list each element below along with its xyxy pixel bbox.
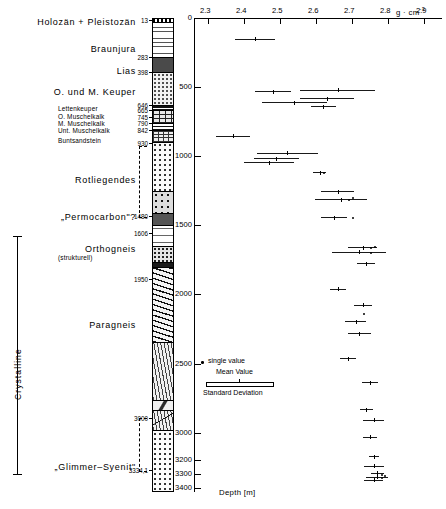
y-tick-label: 1500 — [166, 220, 192, 229]
x-tick — [316, 19, 317, 24]
y-tick — [195, 460, 201, 461]
rotliegendes-bracket — [139, 146, 147, 218]
mean-value-marker — [323, 105, 324, 109]
single-value-point — [370, 252, 372, 254]
core-depth-value: 665 — [118, 107, 148, 114]
figure-root: Holozän + PleistozänBraunjuraLiasO. und … — [0, 0, 446, 509]
strat-unit-label: Paragneis — [89, 320, 136, 330]
mean-value-marker — [255, 37, 256, 41]
lith-paragneis-band — [153, 401, 173, 411]
mean-value-marker — [269, 161, 270, 165]
y-tick-label: 3200 — [166, 455, 192, 464]
strat-unit-label: Orthogneis — [85, 244, 136, 254]
lith-lias — [153, 58, 173, 73]
y-tick-label: 3400 — [166, 483, 192, 492]
mean-value-marker — [273, 90, 274, 94]
mean-value-marker — [363, 303, 364, 307]
x-tick-label: 2.5 — [272, 6, 283, 15]
strat-unit-label: O. und M. Keuper — [54, 87, 136, 97]
y-tick-label: 0 — [166, 13, 192, 22]
y-tick-label: 2500 — [166, 359, 192, 368]
mean-value-marker — [327, 97, 328, 101]
x-axis-unit-label: g · cm-3 — [396, 6, 425, 17]
y-tick-label: 3300 — [166, 469, 192, 478]
core-depth-value: 283 — [118, 54, 148, 61]
density-depth-plot: 2.32.42.52.62.72.82.9 050010001500200025… — [194, 18, 442, 492]
mean-value-marker — [359, 332, 360, 336]
x-tick-label: 2.6 — [308, 6, 319, 15]
y-tick — [195, 433, 201, 434]
lith-untere-muschelkalk — [153, 131, 173, 143]
mean-value-marker — [370, 435, 371, 439]
y-tick-label: 3000 — [166, 428, 192, 437]
core-depth-value: 3334,1 — [118, 467, 148, 474]
strat-unit-label: Unt. Muschelkalk — [58, 127, 110, 134]
x-axis-unit-exponent: -3 — [419, 6, 425, 12]
mean-value-marker — [374, 455, 375, 459]
mean-value-marker — [294, 101, 295, 105]
mean-value-marker — [287, 151, 288, 155]
core-depth-value: 842 — [118, 127, 148, 134]
core-depth-value: 3000 — [118, 415, 148, 422]
strat-unit-label: O. Muschelkalk — [58, 113, 104, 120]
legend-standard-deviation-label: Standard Deviation — [203, 389, 263, 396]
mean-value-marker — [366, 262, 367, 266]
y-tick-label: 2000 — [166, 289, 192, 298]
strat-unit-label: (strukturell) — [58, 254, 93, 261]
lith-braunjura — [153, 23, 173, 58]
lith-rotliegendes-upper — [153, 192, 173, 214]
x-tick — [388, 19, 389, 24]
legend-single-value-dot — [201, 361, 204, 364]
core-depth-value: 1480 — [118, 213, 148, 220]
single-value-point — [363, 313, 365, 315]
core-depth-value: 1606 — [118, 230, 148, 237]
y-tick-label: 1000 — [166, 151, 192, 160]
y-tick — [195, 294, 201, 295]
mean-value-marker — [374, 464, 375, 468]
strat-unit-label: Lettenkeuper — [58, 105, 98, 112]
strat-unit-label: M. Muschelkalk — [58, 120, 105, 127]
y-tick — [195, 225, 201, 226]
y-tick — [195, 364, 201, 365]
x-tick — [244, 19, 245, 24]
x-tick — [352, 19, 353, 24]
y-tick-label: 500 — [166, 82, 192, 91]
legend-sd-bracket — [206, 383, 274, 387]
x-tick-label: 2.7 — [344, 6, 355, 15]
core-depth-value: 1950 — [118, 276, 148, 283]
mean-value-marker — [233, 134, 234, 138]
y-tick — [195, 474, 201, 475]
lith-syenit-contact — [153, 412, 173, 426]
y-tick — [195, 488, 201, 489]
mean-value-marker — [370, 381, 371, 385]
core-depth-value: 930 — [118, 140, 148, 147]
lith-orthogneis — [153, 268, 173, 343]
legend-single-value-label: single value — [208, 357, 245, 364]
strat-unit-label: Rotliegendes — [75, 175, 136, 185]
core-depth-value: 790 — [118, 120, 148, 127]
mean-value-marker — [356, 320, 357, 324]
x-tick-label: 2.3 — [200, 6, 211, 15]
lith-obere-muschelkalk — [153, 111, 173, 124]
mean-value-marker — [338, 287, 339, 291]
core-depth-value: 398 — [118, 69, 148, 76]
mean-value-marker — [374, 418, 375, 422]
glimmer-syenit-bracket — [139, 418, 147, 472]
mean-value-marker — [276, 157, 277, 161]
crystalline-bracket-cap-bottom — [13, 474, 22, 475]
lith-mittlere-muschelkalk — [153, 124, 173, 131]
y-axis-line — [194, 18, 195, 492]
strat-unit-label: Buntsandstein — [58, 137, 101, 144]
core-depth-value: 13 — [118, 17, 148, 24]
mean-value-marker — [366, 408, 367, 412]
mean-value-marker — [363, 246, 364, 250]
single-value-point — [323, 172, 325, 174]
x-tick — [424, 19, 425, 24]
single-value-point — [374, 246, 376, 248]
mean-value-marker — [341, 198, 342, 202]
y-tick — [195, 156, 201, 157]
x-axis-unit-text: g · cm — [396, 8, 419, 17]
single-value-point — [381, 474, 383, 476]
legend-mean-value-label: Mean Value — [216, 368, 253, 375]
lith-permocarbon — [153, 247, 173, 263]
